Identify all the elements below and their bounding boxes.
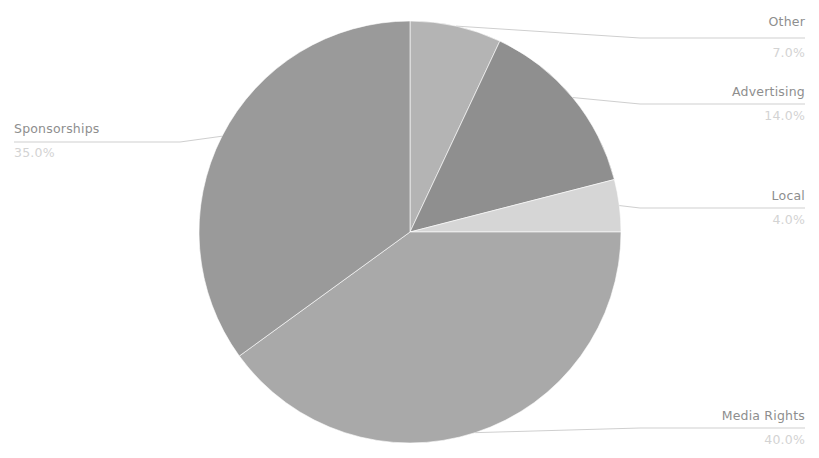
slice-label-percent-sponsorships: 35.0% [14,145,55,160]
slice-label-percent-local: 4.0% [772,212,805,227]
slice-label-name-other: Other [769,14,806,29]
slice-label-percent-other: 7.0% [772,45,805,60]
pie-chart-figure: Other7.0%Advertising14.0%Local4.0%Media … [0,0,819,458]
leader-line-local [619,206,805,208]
pie-slices-group [199,21,621,443]
slice-label-name-media-rights: Media Rights [722,408,805,423]
pie-chart-canvas: Other7.0%Advertising14.0%Local4.0%Media … [0,0,819,458]
slice-label-name-sponsorships: Sponsorships [14,121,100,136]
slice-label-name-advertising: Advertising [732,84,805,99]
leader-line-other [456,26,805,38]
leader-line-media-rights [475,428,805,433]
slice-label-name-local: Local [772,188,805,203]
leader-line-sponsorships [14,136,222,142]
slice-label-percent-advertising: 14.0% [764,108,805,123]
slice-label-percent-media-rights: 40.0% [764,432,805,447]
